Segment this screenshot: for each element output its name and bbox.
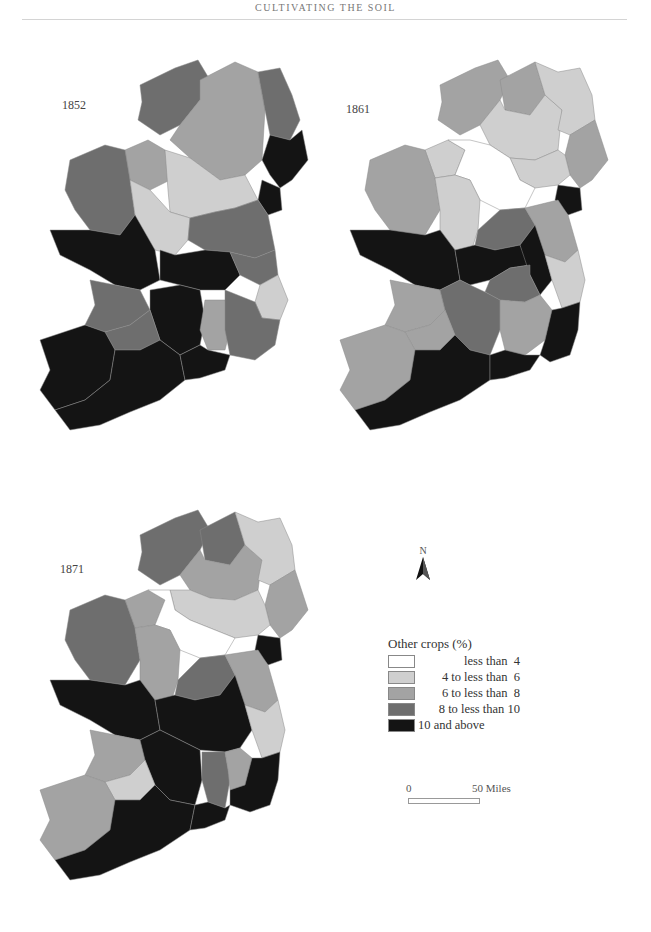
ireland-map-1871 (30, 490, 330, 890)
year-label-1852: 1852 (62, 98, 86, 113)
region-antrim (258, 68, 300, 140)
scale-start-label: 0 (406, 782, 412, 794)
legend-item: 8 to less than 10 (388, 701, 520, 717)
legend-swatch-dark-gray (388, 703, 415, 716)
legend-item: 10 and above (388, 717, 520, 733)
north-arrow: N (412, 546, 434, 586)
region-waterford (490, 350, 540, 380)
map-1871 (30, 490, 330, 890)
legend-swatch-black (388, 719, 415, 732)
region-galway (50, 680, 160, 740)
north-arrow-icon (412, 556, 434, 582)
legend-swatch-mid-gray (388, 687, 415, 700)
legend-swatch-white (388, 655, 415, 668)
region-offaly-laois (160, 250, 240, 290)
legend-swatch-light-gray (388, 671, 415, 684)
map-legend: Other crops (%) less than 4 4 to less th… (388, 636, 520, 733)
region-down (262, 130, 308, 188)
year-label-1861: 1861 (346, 102, 370, 117)
scale-end-label: 50 Miles (472, 782, 511, 794)
year-label-1871: 1871 (60, 562, 84, 577)
legend-label: 10 and above (418, 718, 520, 733)
north-label: N (412, 546, 434, 556)
legend-label: 6 to less than 8 (418, 686, 520, 701)
region-galway (350, 230, 460, 290)
legend-label: 8 to less than 10 (418, 702, 520, 717)
map-1861 (330, 40, 630, 440)
legend-item: 6 to less than 8 (388, 685, 520, 701)
ireland-map-1861 (330, 40, 630, 440)
legend-label: less than 4 (418, 654, 520, 669)
region-kilkenny (202, 752, 230, 808)
legend-item: less than 4 (388, 653, 520, 669)
running-head: CULTIVATING THE SOIL (0, 2, 651, 13)
scale-bar: 0 50 Miles (408, 782, 518, 804)
legend-title: Other crops (%) (388, 636, 520, 652)
header-rule (22, 19, 627, 20)
region-mayo (65, 145, 135, 235)
legend-label: 4 to less than 6 (418, 670, 520, 685)
scale-bar-graphic (408, 798, 480, 804)
legend-item: 4 to less than 6 (388, 669, 520, 685)
